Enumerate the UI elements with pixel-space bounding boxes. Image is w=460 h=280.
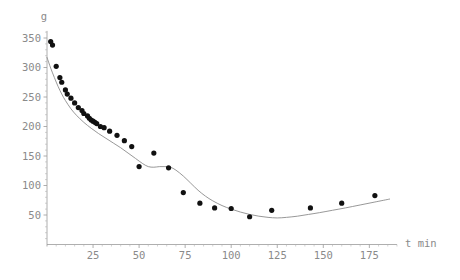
y-tick-label-150: 150: [22, 150, 41, 162]
data-point: [59, 80, 64, 85]
y-tick-label-250: 250: [22, 91, 41, 103]
data-point: [54, 64, 59, 69]
y-tick-label-300: 300: [22, 61, 41, 73]
data-point: [107, 129, 112, 134]
data-point: [57, 75, 62, 80]
x-axis-title: t min: [405, 237, 437, 249]
data-point: [197, 201, 202, 206]
axis-ticks: [44, 32, 397, 248]
data-point: [339, 201, 344, 206]
fitted-curve: [47, 57, 390, 217]
data-point: [72, 100, 77, 105]
data-point: [247, 214, 252, 219]
y-tick-label-50: 50: [28, 209, 41, 221]
data-point: [269, 208, 274, 213]
data-point: [212, 205, 217, 210]
data-point: [137, 164, 142, 169]
x-tick-label-100: 100: [222, 249, 241, 261]
y-tick-label-100: 100: [22, 179, 41, 191]
y-tick-label-350: 350: [22, 32, 41, 44]
y-axis-title: g: [41, 10, 47, 22]
y-tick-label-200: 200: [22, 120, 41, 132]
data-point: [229, 206, 234, 211]
axis-tick-labels: 25507510012515017550100150200250300350: [22, 32, 379, 261]
data-point: [68, 96, 73, 101]
data-point: [372, 193, 377, 198]
chart-page: 25507510012515017550100150200250300350 g…: [0, 0, 460, 280]
data-point: [166, 165, 171, 170]
x-tick-label-50: 50: [133, 249, 146, 261]
data-point: [65, 91, 70, 96]
data-point: [114, 133, 119, 138]
x-tick-label-175: 175: [360, 249, 379, 261]
data-points: [48, 39, 377, 219]
data-point: [151, 150, 156, 155]
data-point: [308, 205, 313, 210]
x-tick-label-125: 125: [268, 249, 287, 261]
x-tick-label-150: 150: [314, 249, 333, 261]
x-tick-label-75: 75: [179, 249, 192, 261]
data-point: [129, 144, 134, 149]
x-tick-label-25: 25: [87, 249, 100, 261]
data-point: [122, 138, 127, 143]
data-point: [50, 42, 55, 47]
axes: [47, 31, 397, 247]
data-point: [102, 125, 107, 130]
fit-curve-path: [47, 57, 390, 217]
scatter-plot: 25507510012515017550100150200250300350 g…: [0, 0, 460, 280]
data-point: [181, 190, 186, 195]
